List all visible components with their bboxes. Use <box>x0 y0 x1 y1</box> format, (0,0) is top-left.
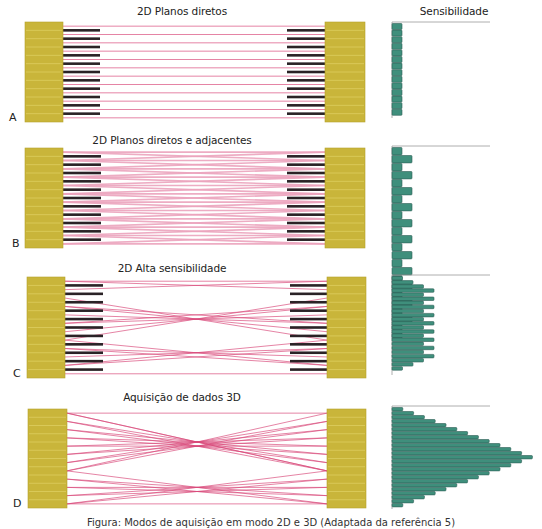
sensitivity-bar <box>392 476 478 479</box>
sensitivity-bar <box>392 480 468 483</box>
sensitivity-bar <box>392 464 511 467</box>
sensitivity-bar <box>392 363 413 367</box>
septum-left <box>65 309 103 312</box>
sensitivity-bar <box>392 354 434 358</box>
sensitivity-bar <box>392 444 500 447</box>
sensitivity-bar <box>392 412 414 415</box>
septum-left <box>63 197 101 200</box>
septum-left <box>65 335 103 338</box>
septum-right <box>287 230 325 233</box>
septum-left <box>63 54 100 57</box>
septum-left <box>63 172 101 175</box>
septum-right <box>287 37 325 40</box>
septum-right <box>287 87 325 90</box>
septum-right <box>287 29 325 32</box>
septum-left <box>63 188 101 191</box>
sensitivity-bar <box>392 359 424 363</box>
septum-right <box>290 326 327 329</box>
sensitivity-bar <box>392 252 412 259</box>
sensitivity-bar <box>392 496 424 499</box>
sensitivity-bar <box>392 330 434 334</box>
sensitivity-bar <box>392 148 402 155</box>
panel-a-letter: A <box>9 111 17 124</box>
septum-left <box>63 62 100 65</box>
septum-left <box>63 104 100 107</box>
sensitivity-bar <box>392 24 402 30</box>
sensitivity-bar <box>392 180 402 187</box>
sensitivity-bar <box>392 90 402 96</box>
sensitivity-bar <box>392 268 412 275</box>
sensitivity-bar <box>392 416 424 419</box>
panel-b-title: 2D Planos diretos e adjacentes <box>92 134 251 146</box>
panel-d-letter: D <box>13 497 21 510</box>
septum-left <box>63 238 101 241</box>
sensitivity-bar <box>392 342 424 346</box>
septum-right <box>287 79 325 82</box>
sensitivity-bar <box>392 346 434 350</box>
septum-right <box>287 188 325 191</box>
sensitivity-bar <box>392 63 402 69</box>
septum-left <box>65 318 103 321</box>
sensitivity-bar <box>392 436 478 439</box>
sensitivity-bar <box>392 301 424 305</box>
septum-left <box>63 155 101 158</box>
septum-right <box>287 104 325 107</box>
sensitivity-bar <box>392 338 434 342</box>
sensitivity-bar <box>392 220 412 227</box>
sensitivity-bar <box>392 322 434 326</box>
septum-left <box>63 37 100 40</box>
septum-right <box>287 54 325 57</box>
sensitivity-bar <box>392 289 434 293</box>
sensitivity-bar <box>392 350 424 354</box>
septum-left <box>65 360 103 363</box>
sensitivity-bar <box>392 424 446 427</box>
septum-left <box>65 351 103 354</box>
septum-right <box>290 343 327 346</box>
sensitivity-bar <box>392 452 522 455</box>
septum-left <box>63 205 101 208</box>
septum-left <box>65 343 103 346</box>
septum-left <box>63 46 100 49</box>
septum-right <box>287 205 325 208</box>
sensitivity-bar <box>392 57 402 63</box>
septum-right <box>287 222 325 225</box>
septum-right <box>287 197 325 200</box>
septum-left <box>65 293 103 296</box>
panel-a-title: 2D Planos diretos <box>137 5 227 17</box>
sensitivity-bar <box>392 43 402 49</box>
sensitivity-bar <box>392 448 511 451</box>
septum-right <box>287 180 325 183</box>
sensitivity-bar <box>392 285 424 289</box>
sensitivity-bar <box>392 420 435 423</box>
sensitivity-bar <box>392 367 403 371</box>
septum-left <box>63 71 100 74</box>
sensitivity-bar <box>392 156 412 163</box>
septum-right <box>287 172 325 175</box>
panel-c-letter: C <box>13 367 21 380</box>
sensitivity-bar <box>392 305 434 309</box>
sensitivity-bar <box>392 244 402 251</box>
sensitivity-bar <box>392 326 424 330</box>
sensitivity-bar <box>392 70 402 76</box>
sensitivity-bar <box>392 500 414 503</box>
sensitivity-bar <box>392 428 457 431</box>
sensitivity-bar <box>392 212 402 219</box>
sensitivity-bar <box>392 408 403 411</box>
sensitivity-bar <box>392 492 435 495</box>
sensitivity-bar <box>392 76 402 82</box>
sensitivity-bar <box>392 484 457 487</box>
figure-caption: Figura: Modos de aquisição em modo 2D e … <box>0 517 542 528</box>
septum-left <box>63 79 100 82</box>
septum-left <box>63 87 100 90</box>
sensitivity-bar <box>392 260 402 267</box>
sensitivity-bar <box>392 472 489 475</box>
septum-right <box>287 46 325 49</box>
septum-left <box>65 301 103 304</box>
sensitivity-bar <box>392 293 424 297</box>
sensitivity-bar <box>392 172 412 179</box>
septum-left <box>63 213 101 216</box>
panel-b-letter: B <box>12 237 20 250</box>
sensitivity-bar <box>392 468 500 471</box>
sensitivity-bar <box>392 440 489 443</box>
